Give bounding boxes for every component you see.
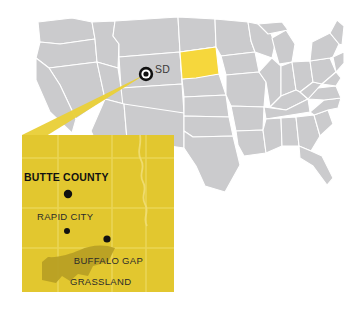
state-label-sd: SD (155, 64, 170, 75)
target-marker-icon (139, 67, 153, 81)
city-dot-buffalo-gap (103, 235, 110, 242)
inset-label-buffalo-gap-grassland: BUFFALO GAP GRASSLAND (62, 246, 143, 308)
locator-map-figure: SD BUTTE COUNTY RAPID CITY BUFFALO GAP G… (0, 0, 344, 309)
buffalo-gap-line2: GRASSLAND (70, 277, 143, 287)
inset-title-butte-county: BUTTE COUNTY (24, 172, 109, 183)
city-dot-butte (64, 190, 72, 198)
buffalo-gap-line1: BUFFALO GAP (74, 255, 143, 266)
map-markers (0, 0, 344, 309)
inset-label-rapid-city: RAPID CITY (37, 212, 93, 222)
city-dot-rapid-city (64, 228, 70, 234)
